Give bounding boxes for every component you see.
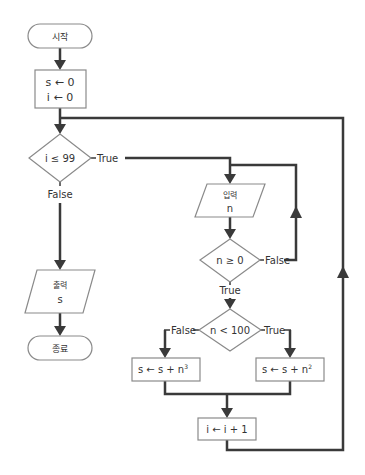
- edge-cond-i-true: [125, 158, 230, 176]
- arrow-down-icon: [224, 299, 236, 309]
- increment-label: i ← i + 1: [206, 424, 247, 435]
- start-label: 시작: [52, 32, 68, 42]
- arrow-down-icon: [224, 174, 236, 184]
- arrow-down-icon: [54, 260, 66, 270]
- arrow-down-icon: [54, 124, 66, 134]
- init-line-2: i ← 0: [47, 91, 73, 104]
- condition-i-label: i ≤ 99: [45, 153, 75, 164]
- output-line-2: s: [57, 294, 62, 305]
- arrow-down-icon: [159, 348, 171, 358]
- input-line-1: 입력: [223, 190, 237, 200]
- condition-n-nonneg-label: n ≥ 0: [216, 255, 243, 266]
- cond-small-false-label: False: [171, 325, 196, 336]
- edge-merge: [165, 381, 290, 394]
- cond-n-false-label: False: [265, 255, 290, 266]
- output-s-parallelogram: [25, 270, 95, 313]
- condition-n-small-label: n < 100: [210, 325, 250, 336]
- connectors: [60, 48, 343, 450]
- flowchart: 시작 s ← 0 i ← 0 i ≤ 99 출력 s 종료 입력 n n ≥ 0…: [0, 0, 365, 475]
- cond-i-false-label: False: [47, 189, 72, 200]
- output-line-1: 출력: [53, 280, 67, 290]
- end-label: 종료: [52, 344, 68, 354]
- edge-loop-back: [60, 118, 343, 450]
- cond-n-true-label: True: [218, 285, 240, 296]
- cond-i-true-label: True: [96, 153, 118, 164]
- arrow-down-icon: [54, 60, 66, 70]
- arrow-up-icon: [290, 206, 302, 218]
- input-line-2: n: [227, 203, 233, 214]
- arrow-down-icon: [284, 348, 296, 358]
- arrow-down-icon: [54, 326, 66, 336]
- arrow-up-icon: [337, 266, 349, 278]
- cond-small-true-label: True: [263, 325, 285, 336]
- add-square-label: s ← s + n2: [262, 363, 312, 375]
- add-cube-label: s ← s + n3: [138, 363, 188, 375]
- arrow-down-icon: [221, 408, 233, 418]
- arrow-down-icon: [224, 229, 236, 239]
- init-line-1: s ← 0: [46, 76, 75, 89]
